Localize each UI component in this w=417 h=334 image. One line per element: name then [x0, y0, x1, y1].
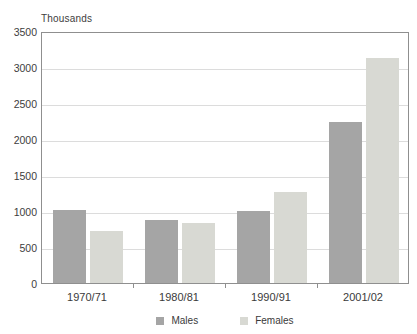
chart-title: Thousands	[41, 13, 92, 24]
y-tick-label: 1500	[0, 170, 37, 182]
legend-label: Males	[171, 315, 198, 326]
legend-label: Females	[255, 315, 293, 326]
bar-group	[237, 192, 307, 283]
bar-males	[145, 220, 178, 283]
y-tick-label: 2500	[0, 98, 37, 110]
bar-females	[274, 192, 307, 283]
y-tick-label: 0	[0, 278, 37, 290]
x-tick	[317, 284, 318, 288]
bar-females	[182, 223, 215, 283]
y-tick-label: 1000	[0, 206, 37, 218]
bar-chart: Thousands 0500100015002000250030003500 1…	[0, 0, 417, 334]
x-tick	[225, 284, 226, 288]
x-tick-label: 1970/71	[47, 291, 127, 303]
legend-swatch-males	[156, 317, 164, 325]
legend-item-females: Females	[240, 315, 293, 326]
bar-females	[366, 58, 399, 283]
x-tick	[133, 284, 134, 288]
legend: MalesFemales	[41, 315, 409, 326]
y-tick-label: 2000	[0, 134, 37, 146]
y-tick-label: 3000	[0, 62, 37, 74]
legend-item-males: Males	[156, 315, 198, 326]
bar-group	[53, 210, 123, 283]
y-tick-label: 500	[0, 242, 37, 254]
plot-area	[41, 32, 409, 284]
legend-swatch-females	[240, 317, 248, 325]
bar-females	[90, 231, 123, 283]
bar-males	[237, 211, 270, 283]
bar-males	[329, 122, 362, 283]
x-tick-label: 1990/91	[231, 291, 311, 303]
bar-group	[329, 58, 399, 283]
y-tick-label: 3500	[0, 26, 37, 38]
bar-group	[145, 220, 215, 283]
x-tick-label: 1980/81	[139, 291, 219, 303]
bar-males	[53, 210, 86, 283]
x-tick-label: 2001/02	[323, 291, 403, 303]
